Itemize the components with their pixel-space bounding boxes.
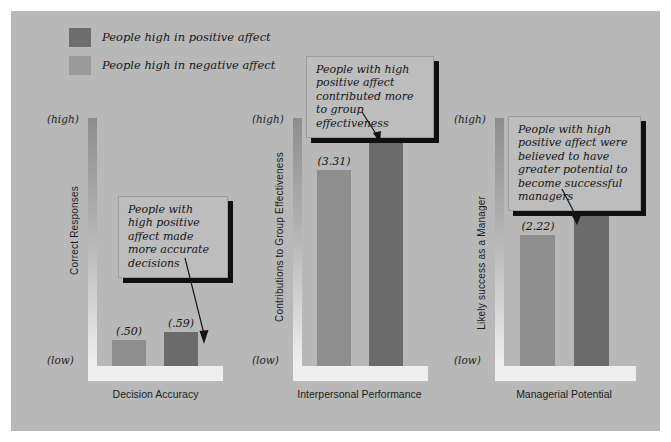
- y-axis-title-2: Likely success as a Manager: [476, 196, 487, 330]
- legend-item-positive: People high in positive affect: [69, 25, 275, 49]
- y-axis-gradient-bar-0: [88, 118, 97, 380]
- category-label-0: Decision Accuracy: [83, 388, 228, 400]
- legend-swatch-negative: [69, 56, 91, 75]
- bar-negative-0: [112, 340, 146, 366]
- category-label-2: Managerial Potential: [489, 388, 639, 400]
- bar-value-negative-1: (3.31): [309, 155, 359, 168]
- category-label-1: Interpersonal Performance: [272, 388, 447, 400]
- axis-low-label-2: (low): [454, 354, 481, 366]
- bar-value-negative-0: (.50): [104, 325, 154, 338]
- callout-arrow-0: [176, 256, 226, 346]
- legend-label-negative: People high in negative affect: [102, 58, 275, 72]
- chart-legend: People high in positive affect People hi…: [69, 25, 275, 81]
- legend-item-negative: People high in negative affect: [69, 53, 275, 77]
- axis-high-label-0: (high): [47, 113, 79, 125]
- axis-high-label-1: (high): [252, 113, 284, 125]
- axis-low-label-1: (low): [252, 354, 279, 366]
- x-axis-baseline-2: [495, 366, 636, 381]
- y-axis-gradient-bar-2: [495, 118, 504, 380]
- panel-interpersonal-performance: (high) (low) Contributions to Group Effe…: [252, 108, 449, 408]
- callout-arrow-2: [558, 186, 598, 231]
- bar-negative-1: [317, 170, 351, 366]
- x-axis-baseline-1: [293, 366, 428, 381]
- legend-swatch-positive: [69, 28, 91, 47]
- bar-value-negative-2: (2.22): [512, 220, 564, 233]
- y-axis-title-1: Contributions to Group Effectiveness: [274, 152, 285, 322]
- chart-figure: People high in positive affect People hi…: [11, 11, 660, 431]
- callout-arrow-1: [356, 109, 396, 149]
- y-axis-gradient-bar-1: [293, 118, 302, 380]
- axis-high-label-2: (high): [454, 113, 486, 125]
- axis-low-label-0: (low): [47, 354, 74, 366]
- y-axis-title-0: Correct Responses: [69, 186, 80, 275]
- legend-label-positive: People high in positive affect: [102, 30, 271, 44]
- x-axis-baseline-0: [88, 366, 223, 381]
- bar-negative-2: [520, 235, 555, 366]
- bar-positive-1: [369, 130, 403, 366]
